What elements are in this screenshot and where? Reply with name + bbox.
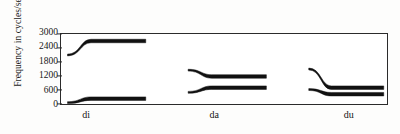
x-tick-label-du: du: [344, 109, 354, 120]
y-tick-label-2400: 2400: [20, 43, 58, 53]
formant-traces: [61, 34, 387, 104]
y-tick-label-1200: 1200: [20, 71, 58, 81]
formant-bar-di-first-formant: [68, 97, 146, 104]
y-tick-label-3000: 3000: [20, 28, 58, 38]
formant-bar-du-second-formant: [309, 68, 384, 89]
y-tick-label-600: 600: [20, 86, 58, 96]
x-tick-label-di: di: [82, 109, 90, 120]
x-tick-label-da: da: [209, 109, 218, 120]
spectrogram-figure: Frequency in cycles/second 0 600 1200 18…: [0, 0, 400, 134]
formant-bar-du-first-formant: [309, 89, 384, 96]
y-tick-label-0: 0: [20, 100, 58, 110]
y-axis-tick-labels: 0 600 1200 1800 2400 3000: [20, 33, 58, 105]
x-axis-tick-labels: di da du: [60, 109, 388, 125]
plot-area: [60, 33, 388, 105]
formant-bar-da-first-formant: [188, 86, 266, 93]
formant-bar-di-second-formant: [68, 39, 146, 56]
y-tick-label-1800: 1800: [20, 57, 58, 67]
formant-bar-da-second-formant: [188, 69, 266, 78]
